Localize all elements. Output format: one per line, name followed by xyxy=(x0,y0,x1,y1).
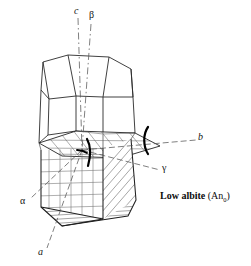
c-axis-line xyxy=(78,18,82,150)
label-a-axis: a xyxy=(38,247,43,257)
label-c-axis: c xyxy=(74,6,78,16)
crystal-figure-container: c β b γ α a Low albite (An0) xyxy=(0,0,251,266)
label-gamma: γ xyxy=(162,163,166,173)
crystal-outline-group xyxy=(31,18,196,254)
label-b-axis: b xyxy=(198,132,203,142)
caption-composition-close: ) xyxy=(227,190,230,201)
low-albite-crystal-diagram xyxy=(0,0,251,266)
caption-composition-open: (An xyxy=(208,190,224,201)
caption-mineral-name: Low albite xyxy=(160,190,205,201)
label-alpha: α xyxy=(20,196,25,206)
label-beta: β xyxy=(89,10,94,20)
figure-caption: Low albite (An0) xyxy=(160,191,230,204)
